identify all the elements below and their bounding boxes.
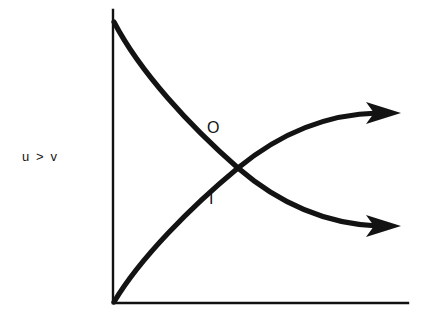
curve-i-group <box>114 102 401 302</box>
curve-o-path <box>114 22 378 226</box>
curve-o-label: O <box>207 120 219 136</box>
side-note-label: u > v <box>22 150 59 163</box>
figure-canvas: u > v O I <box>0 0 426 325</box>
curve-i-label: I <box>209 191 213 207</box>
curve-o-group <box>114 22 401 237</box>
curve-i-path <box>114 113 378 302</box>
curve-diagram-svg <box>0 0 426 325</box>
axes-group <box>113 10 408 303</box>
